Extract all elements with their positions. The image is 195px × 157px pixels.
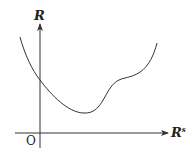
x-axis-label-base: R — [171, 125, 182, 140]
origin-label: O — [26, 134, 36, 148]
curve — [20, 37, 157, 113]
x-axis-label-superscript: s — [182, 125, 186, 134]
x-axis-label: Rs — [171, 125, 186, 140]
y-axis-label: R — [34, 8, 45, 23]
